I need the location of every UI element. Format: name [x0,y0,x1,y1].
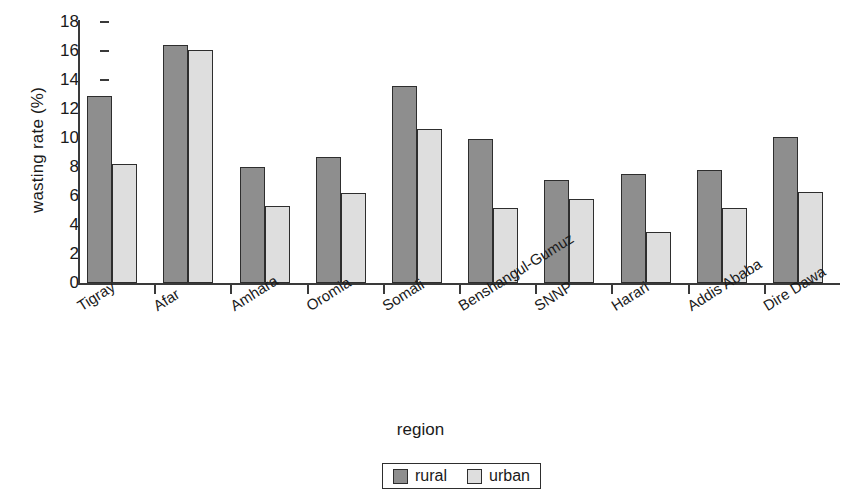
y-tick-label: 2 [49,245,79,262]
y-tick-label: 0 [49,274,79,291]
plot-area [78,22,840,283]
bar-urban-harari [646,232,671,283]
bar-rural-oromia [316,157,341,283]
x-tick-mark [154,285,156,294]
y-axis-ticks: 024681012141618 [30,0,79,300]
x-tick-mark [535,285,537,294]
chart-legend: rural urban [382,463,541,489]
x-tick-mark [307,285,309,294]
y-tick-label: 8 [49,158,79,175]
x-tick-mark [383,285,385,294]
x-tick-mark [688,285,690,294]
bar-rural-afar [163,45,188,283]
x-axis-title: region [0,420,841,440]
bar-rural-harari [621,174,646,283]
legend-label-urban: urban [489,467,530,485]
legend-swatch-rural [393,469,408,484]
y-tick-label: 18 [49,13,79,30]
x-tick-mark [459,285,461,294]
legend-swatch-urban [467,469,482,484]
bar-rural-dire-dawa [773,137,798,283]
bar-rural-tigray [87,96,112,283]
legend-label-rural: rural [415,467,447,485]
y-tick-label: 6 [49,187,79,204]
bar-rural-benshangul-gumuz [468,139,493,283]
x-tick-mark [764,285,766,294]
bar-urban-amhara [265,206,290,283]
legend-item-rural: rural [393,467,447,485]
y-tick-label: 16 [49,42,79,59]
y-tick-label: 4 [49,216,79,233]
bar-rural-addis-ababa [697,170,722,283]
bar-rural-amhara [240,167,265,283]
x-tick-mark [230,285,232,294]
y-tick-label: 10 [49,129,79,146]
legend-item-urban: urban [467,467,530,485]
bar-urban-afar [188,50,213,283]
x-tick-mark [611,285,613,294]
bar-urban-somali [417,129,442,283]
bar-urban-oromia [341,193,366,283]
bar-rural-somali [392,86,417,283]
chart-figure: wasting rate (%) 024681012141618 TigrayA… [0,0,841,490]
y-tick-label: 14 [49,71,79,88]
bar-urban-tigray [112,164,137,283]
y-tick-label: 12 [49,100,79,117]
